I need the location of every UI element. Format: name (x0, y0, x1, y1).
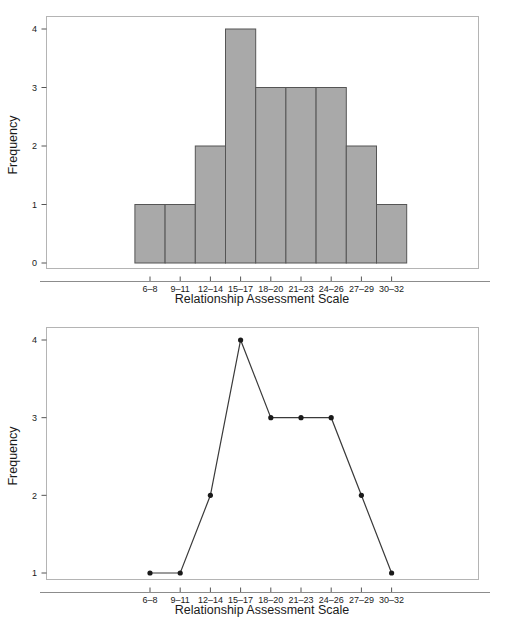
figure-page: 01234 6–89–1112–1415–1718–2021–2324–2627… (0, 0, 516, 622)
y-axis-title: Frequency (6, 426, 20, 486)
histogram-bar (346, 146, 376, 263)
plot-frame (47, 328, 479, 580)
x-tick-label: 27–29 (349, 595, 374, 605)
frequency-polygon-figure: 1234 6–89–1112–1415–1718–2021–2324–2627–… (0, 311, 516, 622)
data-point-marker (238, 337, 243, 342)
histogram-x-axis-ticks: 6–89–1112–1415–1718–2021–2324–2627–2930–… (142, 277, 404, 294)
data-point-marker (359, 493, 364, 498)
data-point-marker (178, 570, 183, 575)
data-point-marker (208, 493, 213, 498)
histogram-bar (195, 146, 225, 263)
y-tick-label: 0 (32, 258, 37, 268)
y-tick-label: 4 (32, 335, 37, 345)
histogram-svg: 01234 6–89–1112–1415–1718–2021–2324–2627… (0, 0, 516, 311)
x-axis-title: Relationship Assessment Scale (175, 292, 349, 306)
y-tick-label: 2 (32, 141, 37, 151)
data-point-marker (329, 415, 334, 420)
histogram-bar (286, 88, 316, 264)
data-point-marker (147, 570, 152, 575)
x-tick-label: 30–32 (379, 595, 404, 605)
x-axis-title: Relationship Assessment Scale (175, 603, 349, 617)
y-tick-label: 1 (32, 568, 37, 578)
x-tick-label: 6–8 (142, 284, 157, 294)
y-tick-label: 3 (32, 83, 37, 93)
data-point-marker (298, 415, 303, 420)
x-tick-label: 27–29 (349, 284, 374, 294)
histogram-figure: 01234 6–89–1112–1415–1718–2021–2324–2627… (0, 0, 516, 311)
histogram-bar (377, 205, 407, 264)
y-tick-label: 2 (32, 491, 37, 501)
data-point-marker (268, 415, 273, 420)
y-tick-label: 3 (32, 413, 37, 423)
histogram-bar (226, 29, 256, 263)
y-tick-label: 1 (32, 200, 37, 210)
polygon-y-axis-ticks: 1234 (32, 335, 47, 578)
polygon-plot-frame (47, 328, 479, 580)
x-tick-label: 30–32 (379, 284, 404, 294)
frequency-polygon-svg: 1234 6–89–1112–1415–1718–2021–2324–2627–… (0, 311, 516, 622)
y-tick-label: 4 (32, 24, 37, 34)
histogram-bar (135, 205, 165, 264)
polygon-x-axis-ticks: 6–89–1112–1415–1718–2021–2324–2627–2930–… (142, 588, 404, 605)
data-point-marker (389, 570, 394, 575)
histogram-bar (256, 88, 286, 264)
histogram-bar (316, 88, 346, 264)
x-tick-label: 6–8 (142, 595, 157, 605)
y-axis-title: Frequency (6, 115, 20, 175)
histogram-y-axis-ticks: 01234 (32, 24, 47, 268)
histogram-bar (165, 205, 195, 264)
